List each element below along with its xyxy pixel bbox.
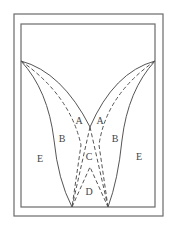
right-middle-dashed-curve (99, 61, 155, 207)
label-e-left: E (37, 153, 43, 164)
label-b-left: B (59, 133, 66, 144)
left-upper-dashed-continuation (90, 127, 108, 207)
label-a-right: A (96, 115, 104, 126)
label-b-right: B (112, 133, 119, 144)
inner-frame (21, 24, 155, 207)
label-a-left: A (75, 115, 83, 126)
label-d: D (85, 186, 92, 197)
diagram-canvas: A A B B C D E E (0, 0, 174, 229)
left-middle-dashed-curve (21, 61, 81, 207)
label-e-right: E (136, 151, 142, 162)
label-c: C (86, 151, 93, 162)
